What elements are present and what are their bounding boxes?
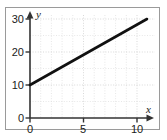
x-axis-label: x bbox=[146, 104, 151, 115]
chart-plot-area bbox=[0, 0, 167, 140]
x-tick-label-5: 5 bbox=[75, 124, 91, 135]
y-tick-label-0: 0 bbox=[4, 113, 24, 124]
x-tick-label-10: 10 bbox=[128, 124, 146, 135]
grid-lines-vertical bbox=[41, 15, 137, 118]
chart-figure: 30 20 10 0 0 5 10 y x bbox=[0, 0, 167, 140]
y-axis-arrow-icon bbox=[27, 11, 34, 19]
y-tick-label-30: 30 bbox=[4, 14, 24, 25]
y-tick-label-20: 20 bbox=[4, 47, 24, 58]
grid-lines-horizontal bbox=[30, 19, 155, 102]
y-axis-label: y bbox=[36, 9, 41, 20]
y-tick-label-10: 10 bbox=[4, 80, 24, 91]
x-tick-label-0: 0 bbox=[22, 124, 38, 135]
x-axis-arrow-icon bbox=[147, 115, 155, 122]
